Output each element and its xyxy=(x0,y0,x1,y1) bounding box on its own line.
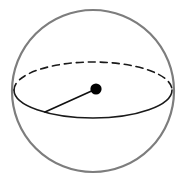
sphere-diagram xyxy=(0,0,176,185)
sphere-figure-container xyxy=(0,0,176,185)
sphere-center-dot xyxy=(90,83,101,94)
